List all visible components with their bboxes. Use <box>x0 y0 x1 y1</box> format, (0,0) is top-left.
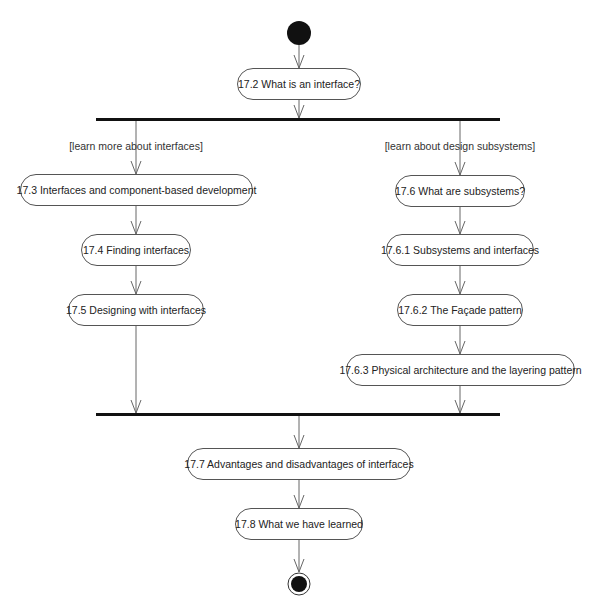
edge-17-5-to-join <box>131 326 141 413</box>
edge-17-6-3-to-join <box>455 386 465 413</box>
join-bar <box>96 413 500 416</box>
final-node <box>291 576 307 592</box>
activity-17-6: 17.6 What are subsystems? <box>395 175 525 207</box>
initial-node <box>287 21 311 45</box>
activity-17-6-2: 17.6.2 The Façade pattern <box>397 294 523 326</box>
edge-join-to-17-7 <box>294 416 304 448</box>
guard-right: [learn about design subsystems] <box>385 140 536 152</box>
edge-17-6-to-17-6-1 <box>455 207 465 234</box>
edge-17-8-to-final <box>294 540 304 572</box>
edge-17-3-to-17-4 <box>131 206 141 234</box>
activity-17-3: 17.3 Interfaces and component-based deve… <box>20 174 253 206</box>
edge-17-7-to-17-8 <box>294 480 304 508</box>
edge-17-2-to-fork <box>294 100 304 118</box>
edge-17-4-to-17-5 <box>131 266 141 294</box>
fork-bar <box>96 118 500 121</box>
edge-start-to-17-2 <box>294 45 304 68</box>
activity-17-5: 17.5 Designing with interfaces <box>68 294 204 326</box>
edge-17-6-1-to-17-6-2 <box>455 266 465 294</box>
activity-17-7: 17.7 Advantages and disadvantages of int… <box>187 448 411 480</box>
activity-17-8: 17.8 What we have learned <box>235 508 363 540</box>
activity-17-6-1: 17.6.1 Subsystems and interfaces <box>386 234 534 266</box>
guard-left: [learn more about interfaces] <box>69 140 203 152</box>
activity-17-6-3: 17.6.3 Physical architecture and the lay… <box>346 354 575 386</box>
activity-17-4: 17.4 Finding interfaces <box>81 234 191 266</box>
activity-17-2: 17.2 What is an interface? <box>237 68 361 100</box>
edge-17-6-2-to-17-6-3 <box>455 326 465 354</box>
